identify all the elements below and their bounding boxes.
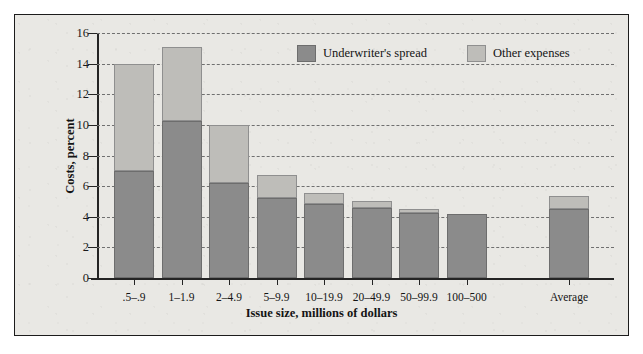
bar-segment-other-expenses[interactable]: [549, 196, 589, 209]
bar-segment-other-expenses[interactable]: [114, 64, 154, 171]
y-axis-tick: [88, 217, 97, 218]
x-axis-tick-label: 5–9.9: [264, 291, 290, 303]
bar-segment-underwriters-spread[interactable]: [257, 198, 297, 278]
bar-100500[interactable]: [447, 214, 487, 278]
x-axis-tick: [277, 278, 278, 285]
x-axis-tick: [229, 278, 230, 285]
y-axis-tick: [88, 278, 97, 279]
y-axis-tick: [88, 33, 97, 34]
bar-segment-other-expenses[interactable]: [209, 125, 249, 183]
x-axis-tick-label: .5–.9: [123, 291, 146, 303]
bar-segment-underwriters-spread[interactable]: [549, 209, 589, 278]
x-axis-tick-label: 50–99.9: [400, 291, 437, 303]
x-axis-tick: [182, 278, 183, 285]
chart-figure: Underwriter's spread Other expenses 0246…: [14, 14, 629, 336]
bar-segment-underwriters-spread[interactable]: [447, 214, 487, 278]
bar-50999[interactable]: [399, 209, 439, 278]
bar-segment-underwriters-spread[interactable]: [352, 208, 392, 278]
y-axis-tick: [88, 247, 97, 248]
bar-segment-other-expenses[interactable]: [304, 193, 344, 204]
bar-segment-underwriters-spread[interactable]: [114, 171, 154, 278]
bar-10199[interactable]: [304, 193, 344, 278]
x-axis-tick-label: Average: [550, 291, 588, 303]
x-axis-title: Issue size, millions of dollars: [15, 306, 628, 321]
y-axis-title: Costs, percent: [63, 118, 78, 193]
bar-segment-underwriters-spread[interactable]: [304, 204, 344, 278]
x-axis-tick: [569, 278, 570, 285]
bar-249[interactable]: [209, 125, 249, 278]
y-axis-tick: [88, 186, 97, 187]
bar-segment-other-expenses[interactable]: [352, 201, 392, 208]
x-axis-tick: [372, 278, 373, 285]
bar-segment-other-expenses[interactable]: [162, 47, 202, 121]
x-axis-tick-label: 2–4.9: [216, 291, 242, 303]
x-axis-tick: [419, 278, 420, 285]
x-axis-tick-label: 10–19.9: [305, 291, 342, 303]
bar-20499[interactable]: [352, 201, 392, 278]
bar-segment-other-expenses[interactable]: [399, 209, 439, 213]
bar-segment-underwriters-spread[interactable]: [399, 213, 439, 278]
bar-segment-other-expenses[interactable]: [257, 175, 297, 198]
bar-59[interactable]: [114, 64, 154, 278]
gridline: [97, 33, 614, 34]
y-axis-tick: [88, 125, 97, 126]
x-axis-tick: [134, 278, 135, 285]
x-axis-tick-label: 1–1.9: [169, 291, 195, 303]
x-axis-tick-label: 100–500: [446, 291, 486, 303]
bar-Average[interactable]: [549, 196, 589, 278]
x-axis-line: [91, 278, 614, 280]
bar-599[interactable]: [257, 175, 297, 278]
bar-segment-underwriters-spread[interactable]: [162, 121, 202, 278]
plot-area: Costs, percent .5–.91–1.92–4.95–9.910–19…: [97, 33, 614, 278]
x-axis-tick: [324, 278, 325, 285]
x-axis-tick: [467, 278, 468, 285]
y-axis-tick: [88, 156, 97, 157]
y-axis-tick: [88, 64, 97, 65]
bar-segment-underwriters-spread[interactable]: [209, 183, 249, 278]
y-axis-tick: [88, 94, 97, 95]
x-axis-tick-label: 20–49.9: [353, 291, 390, 303]
bar-119[interactable]: [162, 47, 202, 278]
